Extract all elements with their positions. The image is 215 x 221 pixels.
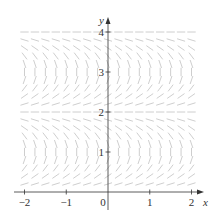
slope-segment	[23, 60, 26, 68]
slope-segment	[42, 94, 49, 99]
slope-segment	[31, 94, 38, 99]
slope-segment	[114, 103, 122, 105]
x-tick-label: −2	[19, 196, 31, 208]
slope-segment	[31, 103, 39, 105]
slope-segment	[63, 46, 70, 51]
slope-segment	[53, 133, 58, 140]
slope-segment	[180, 156, 183, 164]
slope-segment	[20, 103, 28, 105]
slope-segment	[147, 133, 152, 140]
slope-segment	[53, 85, 58, 92]
slope-segment	[117, 140, 120, 148]
slope-segment	[73, 119, 81, 121]
slope-segment	[44, 76, 47, 84]
slope-segment	[187, 183, 195, 185]
slope-segment	[167, 119, 175, 121]
slope-segment	[52, 94, 59, 99]
slope-segment	[147, 165, 152, 172]
slope-segment	[73, 94, 80, 99]
slope-segment	[177, 183, 185, 185]
slope-segment	[85, 53, 90, 60]
slope-segment	[188, 46, 195, 51]
slope-segment	[94, 126, 101, 131]
slope-segment	[83, 119, 91, 121]
slope-segment	[125, 46, 132, 51]
slope-segment	[53, 53, 58, 60]
slope-segment	[167, 94, 174, 99]
slope-segment	[126, 85, 131, 92]
slope-segment	[21, 46, 28, 51]
slope-segment	[44, 140, 47, 148]
slope-segment	[179, 133, 184, 140]
slope-segment	[62, 39, 70, 41]
slope-segment	[65, 140, 68, 148]
slope-segment	[34, 156, 37, 164]
slope-segment	[95, 133, 100, 140]
slope-segment	[32, 85, 37, 92]
slope-segment	[52, 183, 60, 185]
slope-segment	[22, 53, 27, 60]
slope-segment	[42, 126, 49, 131]
slope-segment	[187, 39, 195, 41]
slope-segment	[128, 76, 131, 84]
y-tick-label: 3	[99, 66, 105, 78]
slope-segment	[178, 126, 185, 131]
slope-segment	[94, 46, 101, 51]
slope-segment	[75, 140, 78, 148]
slope-segment	[73, 183, 81, 185]
slope-segment	[65, 60, 68, 68]
slope-segment	[177, 39, 185, 41]
slope-segment	[187, 103, 195, 105]
slope-segment	[116, 85, 121, 92]
slope-segment	[116, 133, 121, 140]
slope-segment	[75, 76, 78, 84]
slope-segment	[137, 85, 142, 92]
slope-segment	[62, 103, 70, 105]
slope-segment	[167, 126, 174, 131]
slope-segment	[116, 53, 121, 60]
slope-segment	[95, 85, 100, 92]
slope-segment	[52, 103, 60, 105]
slope-segment	[32, 165, 37, 172]
slope-segment	[187, 119, 195, 121]
slope-segment	[135, 39, 143, 41]
slope-segment	[168, 53, 173, 60]
slope-segment	[31, 126, 38, 131]
y-axis-label: y	[98, 14, 104, 26]
slope-segment	[43, 53, 48, 60]
slope-segment	[73, 126, 80, 131]
slope-segment	[158, 165, 163, 172]
slope-segment	[128, 140, 131, 148]
slope-segment	[125, 94, 132, 99]
slope-segment	[128, 156, 131, 164]
slope-segment	[63, 126, 70, 131]
slope-segment	[138, 140, 141, 148]
slope-segment	[168, 85, 173, 92]
slope-segment	[189, 165, 194, 172]
slope-segment	[125, 174, 132, 179]
slope-segment	[169, 156, 172, 164]
slope-segment	[86, 140, 89, 148]
slope-segment	[156, 39, 164, 41]
slope-segment	[115, 46, 122, 51]
slope-segment	[114, 119, 122, 121]
slope-segment	[135, 119, 143, 121]
slope-segment	[136, 126, 143, 131]
slope-segment	[94, 103, 102, 105]
slope-segment	[84, 126, 91, 131]
slope-segment	[43, 85, 48, 92]
slope-segment	[22, 133, 27, 140]
slope-segment	[156, 103, 164, 105]
slope-segment	[137, 165, 142, 172]
slope-segment	[115, 94, 122, 99]
slope-segment	[73, 46, 80, 51]
slope-segment	[31, 183, 39, 185]
y-tick-label: 1	[99, 146, 105, 158]
slope-segment	[179, 165, 184, 172]
slope-segment	[188, 126, 195, 131]
slope-segment	[54, 140, 57, 148]
slope-segment	[64, 53, 69, 60]
slope-segment	[158, 53, 163, 60]
slope-segment	[180, 60, 183, 68]
slope-segment	[177, 119, 185, 121]
